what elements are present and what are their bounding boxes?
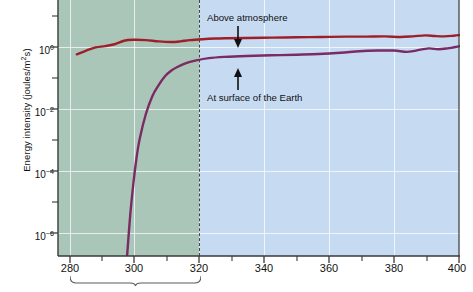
y-tick-label-group: 100 10−2 10−4 10−6 (16, 0, 54, 292)
x-tick-label-340: 340 (244, 262, 284, 274)
plot-area (58, 0, 460, 256)
y-tick-label-1e0: 100 (20, 44, 54, 56)
annotation-at-surface: At surface of the Earth (207, 92, 302, 103)
y-tick-label-1e-4: 10−4 (20, 168, 54, 180)
energy-intensity-chart: Energy intensity (joules/m2s) 100 10−2 1… (0, 0, 473, 292)
y-tick-label-1e-6: 10−6 (20, 230, 54, 242)
uv-range-bracket (70, 276, 201, 286)
x-tick-label-280: 280 (50, 262, 90, 274)
series-line-at-surface (127, 46, 460, 256)
x-tick-label-400: 400 (437, 262, 473, 274)
annotation-above-atmosphere: Above atmosphere (207, 12, 288, 23)
y-tick-label-1e-2: 10−2 (20, 106, 54, 118)
x-tick-label-300: 300 (114, 262, 154, 274)
arrow-up-icon (232, 68, 244, 90)
arrow-down-icon (232, 26, 244, 48)
series-curves (58, 0, 460, 256)
x-tick-label-360: 360 (309, 262, 349, 274)
x-tick-label-380: 380 (374, 262, 414, 274)
x-tick-label-320: 320 (179, 262, 219, 274)
